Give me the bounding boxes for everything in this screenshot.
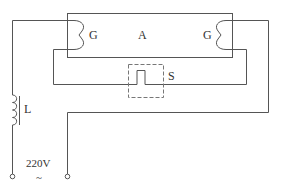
right-filament-icon	[216, 21, 232, 50]
right-terminal	[65, 174, 70, 179]
left-terminal	[10, 174, 15, 179]
starter-contact-icon	[137, 71, 163, 85]
label-ac-symbol: ~	[36, 171, 42, 183]
label-ballast: L	[24, 103, 31, 115]
label-starter: S	[168, 70, 175, 82]
left-inner-wire	[54, 50, 138, 85]
label-voltage: 220V	[26, 157, 50, 169]
starter-dashed-box	[129, 65, 164, 98]
label-filament-right: G	[203, 29, 212, 41]
label-tube: A	[138, 29, 147, 41]
right-inner-wire	[163, 50, 247, 85]
left-outer-wire	[13, 21, 68, 96]
right-outer-wire	[68, 21, 269, 175]
circuit-diagram: G A G S L 220V ~	[0, 0, 284, 189]
label-filament-left: G	[89, 29, 98, 41]
inductor-coil-icon	[13, 95, 17, 125]
left-filament-icon	[68, 21, 84, 50]
